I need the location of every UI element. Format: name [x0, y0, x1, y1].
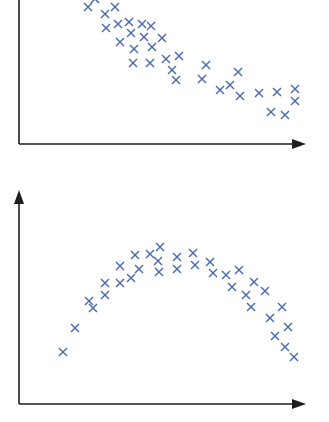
x-marker-icon — [84, 3, 92, 11]
x-marker-icon — [266, 314, 274, 322]
x-marker-icon — [138, 20, 146, 28]
x-marker-icon — [71, 324, 79, 332]
x-marker-icon — [125, 18, 133, 26]
x-marker-icon — [216, 86, 224, 94]
x-marker-icon — [168, 66, 176, 74]
x-marker-icon — [91, 0, 99, 3]
x-marker-icon — [206, 258, 214, 266]
x-marker-icon — [173, 265, 181, 273]
x-marker-icon — [158, 34, 166, 42]
x-marker-icon — [198, 75, 206, 83]
x-marker-icon — [255, 89, 263, 97]
scatter-chart-negative — [0, 0, 329, 160]
x-marker-icon — [111, 3, 119, 11]
x-marker-icon — [234, 68, 242, 76]
x-marker-icon — [140, 33, 148, 41]
x-marker-icon — [173, 253, 181, 261]
data-points — [84, 0, 299, 119]
x-marker-icon — [101, 279, 109, 287]
x-marker-icon — [127, 274, 135, 282]
x-marker-icon — [59, 348, 67, 356]
x-marker-icon — [131, 251, 139, 259]
x-marker-icon — [114, 20, 122, 28]
x-marker-icon — [271, 332, 279, 340]
x-marker-icon — [102, 24, 110, 32]
x-marker-icon — [175, 52, 183, 60]
x-marker-icon — [101, 291, 109, 299]
x-marker-icon — [156, 243, 164, 251]
x-marker-icon — [228, 283, 236, 291]
x-axis-arrow-icon — [292, 399, 306, 409]
x-marker-icon — [116, 262, 124, 270]
x-marker-icon — [250, 278, 258, 286]
x-marker-icon — [281, 111, 289, 119]
x-marker-icon — [267, 108, 275, 116]
x-marker-icon — [273, 88, 281, 96]
x-marker-icon — [89, 304, 97, 312]
x-marker-icon — [127, 29, 135, 37]
x-marker-icon — [147, 22, 155, 30]
x-marker-icon — [129, 59, 137, 67]
x-marker-icon — [146, 250, 154, 258]
x-marker-icon — [155, 268, 163, 276]
scatter-plot-1 — [0, 0, 329, 160]
x-marker-icon — [116, 38, 124, 46]
x-axis-arrow-icon — [292, 139, 306, 149]
x-marker-icon — [202, 61, 210, 69]
x-marker-icon — [222, 271, 230, 279]
axes — [14, 190, 306, 409]
x-marker-icon — [278, 303, 286, 311]
x-marker-icon — [261, 287, 269, 295]
x-marker-icon — [148, 43, 156, 51]
x-marker-icon — [162, 55, 170, 63]
x-marker-icon — [247, 303, 255, 311]
y-axis-arrow-icon — [14, 190, 24, 204]
x-marker-icon — [284, 323, 292, 331]
x-marker-icon — [290, 353, 298, 361]
x-marker-icon — [226, 81, 234, 89]
x-marker-icon — [130, 45, 138, 53]
x-marker-icon — [172, 76, 180, 84]
x-marker-icon — [236, 92, 244, 100]
data-points — [59, 243, 298, 361]
x-marker-icon — [291, 97, 299, 105]
x-marker-icon — [242, 291, 250, 299]
x-marker-icon — [154, 257, 162, 265]
x-marker-icon — [135, 265, 143, 273]
x-marker-icon — [101, 10, 109, 18]
scatter-plot-2 — [0, 180, 329, 422]
x-marker-icon — [291, 85, 299, 93]
x-marker-icon — [281, 343, 289, 351]
x-marker-icon — [209, 269, 217, 277]
x-marker-icon — [235, 266, 243, 274]
scatter-chart-parabolic — [0, 180, 329, 422]
x-marker-icon — [116, 279, 124, 287]
x-marker-icon — [189, 249, 197, 257]
x-marker-icon — [85, 297, 93, 305]
axes — [19, 0, 306, 149]
x-marker-icon — [146, 59, 154, 67]
x-marker-icon — [191, 261, 199, 269]
